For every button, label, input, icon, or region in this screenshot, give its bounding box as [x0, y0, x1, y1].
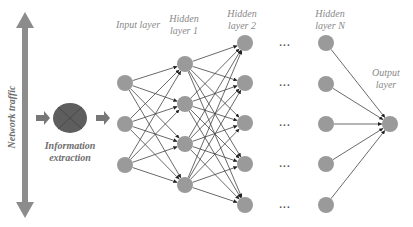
node-input-layer-2 — [117, 116, 133, 132]
node-input-layer-3 — [117, 157, 133, 173]
node-hidden-layer-n-2 — [318, 76, 334, 92]
output-arrow-icon — [96, 111, 110, 125]
input-layer-label: Input layer — [115, 19, 160, 30]
edge — [131, 70, 180, 119]
input-arrow-icon — [36, 111, 50, 125]
edge — [193, 167, 238, 183]
extraction-label-line2: extraction — [49, 152, 91, 163]
hidden-layer-2-label-line1: Hidden — [226, 8, 256, 19]
network-traffic-label: Network traffic — [6, 85, 17, 149]
ellipsis-marker: ... — [279, 199, 290, 210]
edge — [193, 188, 238, 203]
edge — [333, 88, 383, 120]
output-layer-label-line2: layer — [376, 79, 397, 90]
node-hidden-layer-n-1 — [318, 35, 334, 51]
edge — [188, 50, 242, 177]
node-hidden-layer-n-3 — [318, 116, 334, 132]
ellipsis-marker: ... — [279, 77, 290, 88]
ellipsis-marker: ... — [279, 37, 290, 48]
node-hidden-layer-1-3 — [177, 136, 193, 152]
node-hidden-layer-1-2 — [177, 96, 193, 112]
neural-network-diagram: Network traffic Information extraction .… — [0, 0, 413, 227]
network-edges — [129, 46, 385, 203]
edge — [189, 90, 241, 178]
node-hidden-layer-2-1 — [237, 35, 253, 51]
extraction-label-line1: Information — [44, 140, 96, 151]
node-output-layer-1 — [382, 116, 398, 132]
edge — [131, 110, 180, 160]
node-input-layer-1 — [117, 75, 133, 91]
hidden-layer-n-label-line2: layer N — [315, 20, 346, 31]
node-hidden-layer-n-5 — [318, 197, 334, 213]
hidden-layer-n-label-line1: Hidden — [314, 8, 344, 19]
diagram-svg: Network traffic Information extraction .… — [0, 0, 413, 227]
edge — [129, 71, 181, 158]
edge — [193, 46, 238, 62]
node-hidden-layer-2-4 — [237, 156, 253, 172]
network-traffic-arrow — [16, 12, 34, 218]
node-hidden-layer-2-5 — [237, 197, 253, 213]
node-hidden-layer-2-3 — [237, 115, 253, 131]
node-hidden-layer-2-2 — [237, 75, 253, 91]
node-hidden-layer-1-1 — [177, 56, 193, 72]
edge — [331, 130, 385, 198]
edge — [131, 89, 180, 139]
ellipsis-markers: ............... — [279, 37, 290, 210]
hidden-layer-1-label-line2: layer 1 — [170, 25, 198, 36]
information-extraction-block — [36, 103, 110, 133]
edge — [189, 50, 241, 137]
ellipsis-marker: ... — [279, 117, 290, 128]
node-hidden-layer-1-4 — [177, 177, 193, 193]
edge — [333, 128, 383, 160]
output-layer-label-line1: Output — [372, 67, 400, 78]
edge — [133, 168, 178, 183]
node-hidden-layer-n-4 — [318, 156, 334, 172]
hidden-layer-1-label-line1: Hidden — [168, 13, 198, 24]
ellipsis-marker: ... — [279, 158, 290, 169]
hidden-layer-2-label-line2: layer 2 — [228, 20, 256, 31]
